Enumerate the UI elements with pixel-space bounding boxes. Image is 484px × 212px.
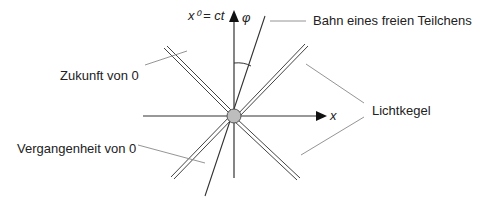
light-cone-diagram: x⁰ = ct φ x Bahn eines freien Teilchens … xyxy=(0,0,484,212)
future-label: Zukunft von 0 xyxy=(60,68,139,83)
origin-event xyxy=(227,109,241,123)
leader-lines xyxy=(138,21,364,163)
particle-trajectory xyxy=(205,16,265,196)
past-label: Vergangenheit von 0 xyxy=(17,141,136,156)
light-cone-label: Lichtkegel xyxy=(372,103,431,118)
angle-label: φ xyxy=(242,10,250,25)
time-axis-label: x⁰ = ct xyxy=(188,8,224,23)
time-axis-arrow-icon xyxy=(229,10,239,22)
x-axis-arrow-icon xyxy=(316,111,327,121)
trajectory-label: Bahn eines freien Teilchens xyxy=(313,13,472,28)
x-axis-label: x xyxy=(330,108,337,123)
